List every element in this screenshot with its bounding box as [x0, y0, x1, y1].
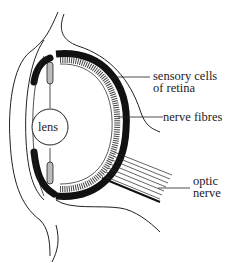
label-sensory-cells: sensory cells of retina	[153, 70, 217, 94]
eye-drawing	[0, 0, 232, 263]
label-sensory-cells-line2: of retina	[153, 81, 195, 95]
label-lens: lens	[38, 121, 58, 133]
eye-diagram: sensory cells of retina nerve fibres opt…	[0, 0, 232, 263]
label-optic-line2: nerve	[193, 186, 221, 200]
label-nerve-fibres: nerve fibres	[163, 111, 222, 123]
label-optic-nerve: optic nerve	[193, 175, 221, 199]
